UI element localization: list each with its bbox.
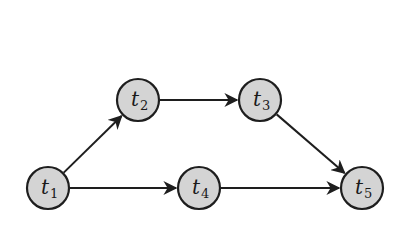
node-t1: t1 [27,167,69,209]
node-t2: t2 [117,79,159,121]
node-t4: t4 [178,167,220,209]
node-t3: t3 [239,79,281,121]
nodes-layer: t1t2t3t4t5 [27,79,383,209]
task-dependency-graph: t1t2t3t4t5 [0,0,406,230]
node-t5: t5 [341,167,383,209]
edge-t3-to-t5 [277,114,345,173]
edge-t1-to-t2 [64,116,122,173]
